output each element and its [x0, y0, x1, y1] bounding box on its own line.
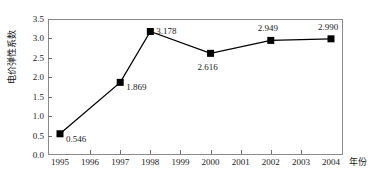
y-tick-mark	[48, 58, 52, 59]
y-tick-mark	[48, 97, 52, 98]
y-tick-mark	[48, 116, 52, 117]
x-tick-label: 1995	[44, 158, 76, 167]
data-point-label: 1.869	[126, 83, 146, 92]
electricity-price-elasticity-line-chart: 电价弹性系数 0.00.51.01.52.02.53.03.5 19951996…	[0, 0, 376, 180]
y-tick-mark	[48, 38, 52, 39]
y-axis-title: 电价弹性系数	[7, 19, 17, 95]
y-tick-label: 2.0	[24, 73, 44, 82]
data-point-label: 0.546	[66, 135, 86, 144]
x-tick-label: 1996	[74, 158, 106, 167]
x-tick-mark	[301, 150, 302, 154]
y-tick-label: 1.5	[24, 93, 44, 102]
y-tick-label: 3.0	[24, 34, 44, 43]
y-tick-label: 0.5	[24, 132, 44, 141]
data-point-label: 2.616	[198, 63, 218, 72]
plot-area-frame	[48, 19, 343, 155]
x-tick-mark	[271, 150, 272, 154]
data-point-label: 3.178	[156, 27, 176, 36]
x-tick-label: 2003	[285, 158, 317, 167]
y-tick-mark	[48, 136, 52, 137]
x-tick-mark	[150, 150, 151, 154]
x-tick-label: 1997	[104, 158, 136, 167]
y-tick-label: 3.5	[24, 15, 44, 24]
x-tick-mark	[120, 150, 121, 154]
data-point-label: 2.990	[318, 23, 338, 32]
x-tick-mark	[241, 150, 242, 154]
x-axis-title: 年份	[349, 158, 367, 167]
x-tick-label: 2002	[255, 158, 287, 167]
x-tick-label: 2000	[195, 158, 227, 167]
x-tick-mark	[180, 150, 181, 154]
data-point-label: 2.949	[258, 24, 278, 33]
y-tick-label: 1.0	[24, 112, 44, 121]
x-tick-mark	[90, 150, 91, 154]
y-tick-label: 0.0	[24, 151, 44, 160]
y-tick-label: 2.5	[24, 54, 44, 63]
x-tick-mark	[211, 150, 212, 154]
x-tick-label: 1999	[164, 158, 196, 167]
x-tick-label: 1998	[134, 158, 166, 167]
y-tick-mark	[48, 77, 52, 78]
x-tick-label: 2004	[315, 158, 347, 167]
x-tick-label: 2001	[225, 158, 257, 167]
